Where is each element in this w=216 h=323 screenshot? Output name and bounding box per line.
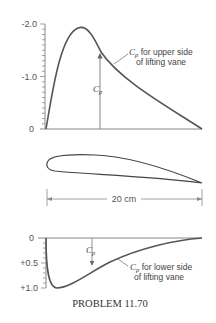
upper-tick-minus-2: -2.0 [21, 19, 37, 29]
dimension-arrow-right-icon [197, 197, 202, 201]
airfoil-section: 20 cm [47, 155, 202, 206]
upper-tick-minus-1: -1.0 [21, 72, 37, 82]
dimension-arrow-left-icon [47, 197, 52, 201]
upper-arrow-label: Cp [93, 84, 103, 95]
lower-arrow-label: Cp [86, 245, 96, 256]
upper-cp-curve [46, 27, 202, 129]
lower-tick-half: +0.5 [20, 258, 38, 268]
upper-y-ticks [40, 24, 45, 124]
upper-tick-zero: 0 [29, 124, 34, 134]
lower-leader-line [118, 259, 128, 266]
figure-caption: PROBLEM 11.70 [72, 298, 147, 309]
lower-curve-label-line2: of lifting vane [134, 272, 184, 282]
lower-cp-plot: 0 +0.5 +1.0 Cp Cp for lower side of lift… [20, 233, 202, 293]
problem-figure: -2.0 -1.0 0 Cp Cp for upper side of lift… [0, 0, 216, 323]
upper-leader-line [114, 54, 128, 64]
chord-dimension-label: 20 cm [112, 194, 137, 204]
lower-tick-zero: 0 [29, 233, 34, 243]
lower-tick-one: +1.0 [20, 283, 38, 293]
upper-cp-plot: -2.0 -1.0 0 Cp Cp for upper side of lift… [21, 19, 202, 134]
airfoil-outline [47, 155, 202, 183]
upper-curve-label-line2: of lifting vane [136, 57, 186, 67]
lower-y-ticks [41, 243, 46, 288]
